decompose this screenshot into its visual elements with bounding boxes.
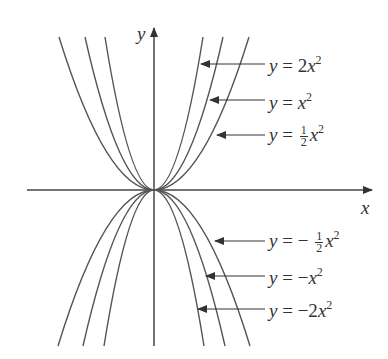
- label-eq: = 2: [277, 55, 307, 76]
- label-exp: 2: [334, 228, 340, 242]
- label-eq: = −: [277, 267, 308, 288]
- label-x: x: [325, 230, 333, 251]
- label-eq: =: [277, 92, 297, 113]
- label-exp: 2: [317, 265, 323, 279]
- label-exp: 2: [318, 122, 324, 136]
- label-y-half-x2: y = 12x2: [269, 123, 324, 148]
- y-axis-label: y: [137, 24, 145, 43]
- fraction-denominator: 2: [300, 137, 308, 148]
- fraction: 12: [315, 231, 323, 254]
- label-x: x: [307, 55, 315, 76]
- label-exp: 2: [316, 53, 322, 67]
- label-y-neg-2x2: y = −2x2: [269, 299, 332, 320]
- fraction-denominator: 2: [315, 243, 323, 254]
- label-eq: = −2: [277, 300, 317, 321]
- label-x: x: [298, 92, 306, 113]
- label-y-2x2: y = 2x2: [269, 54, 322, 75]
- label-eq: = −: [277, 230, 313, 251]
- label-y-neg-x2: y = −x2: [269, 266, 323, 287]
- x-axis-label: x: [361, 198, 369, 217]
- label-x: x: [310, 124, 318, 145]
- label-exp: 2: [306, 90, 312, 104]
- label-x: x: [308, 267, 316, 288]
- label-exp: 2: [326, 298, 332, 312]
- label-y-neg-half-x2: y = − 12x2: [269, 229, 340, 254]
- label-eq: =: [277, 124, 297, 145]
- fraction: 12: [300, 125, 308, 148]
- label-y-x2: y = x2: [269, 91, 312, 112]
